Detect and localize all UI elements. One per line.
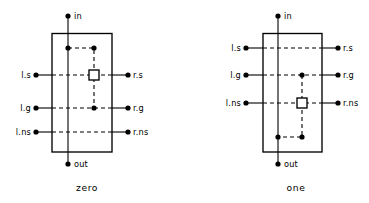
port-dot-right-r.s[interactable] (335, 45, 340, 50)
port-dot-right-r.ns[interactable] (335, 100, 340, 105)
caption-zero: zero (76, 182, 98, 193)
switch-square-one[interactable] (297, 98, 307, 108)
internal-dot-zero-2 (91, 105, 96, 110)
diagram-svg: l.sl.gl.nsr.sr.gr.nsinoutzerol.sl.gl.nsr… (0, 0, 369, 203)
port-dot-right-r.s[interactable] (125, 72, 130, 77)
port-label-right-r.ns: r.ns (133, 127, 148, 137)
port-label-right-r.s: r.s (343, 43, 353, 53)
internal-dot-zero-0 (65, 45, 70, 50)
port-label-right-r.ns: r.ns (343, 98, 358, 108)
switch-square-zero[interactable] (89, 70, 99, 80)
port-dot-in-one[interactable] (275, 13, 280, 18)
internal-dot-one-1 (299, 134, 304, 139)
port-label-left-l.s: l.s (21, 70, 31, 80)
port-dot-left-l.s[interactable] (243, 45, 248, 50)
internal-dot-one-0 (299, 72, 304, 77)
port-label-in-zero: in (74, 11, 82, 21)
port-dot-right-r.ns[interactable] (125, 129, 130, 134)
cell-box-one (263, 34, 322, 153)
port-dot-out-one[interactable] (275, 161, 280, 166)
cell-one: l.sl.gl.nsr.sr.gr.nsinoutone (226, 11, 359, 193)
port-dot-in-zero[interactable] (65, 13, 70, 18)
port-label-left-l.ns: l.ns (16, 127, 31, 137)
cell-zero: l.sl.gl.nsr.sr.gr.nsinoutzero (16, 11, 149, 193)
port-dot-left-l.g[interactable] (243, 72, 248, 77)
port-dot-right-r.g[interactable] (335, 72, 340, 77)
port-label-in-one: in (284, 11, 292, 21)
figure-canvas: l.sl.gl.nsr.sr.gr.nsinoutzerol.sl.gl.nsr… (0, 0, 369, 203)
port-label-out-zero: out (74, 159, 89, 169)
port-dot-out-zero[interactable] (65, 161, 70, 166)
port-label-right-r.g: r.g (133, 103, 144, 113)
port-dot-left-l.ns[interactable] (243, 100, 248, 105)
internal-dot-zero-1 (91, 45, 96, 50)
port-label-out-one: out (284, 159, 299, 169)
port-dot-left-l.s[interactable] (33, 72, 38, 77)
port-label-left-l.ns: l.ns (226, 98, 241, 108)
port-label-left-l.s: l.s (231, 43, 241, 53)
port-label-right-r.s: r.s (133, 70, 143, 80)
port-dot-left-l.g[interactable] (33, 105, 38, 110)
port-label-right-r.g: r.g (343, 70, 354, 80)
port-label-left-l.g: l.g (230, 70, 241, 80)
cell-box-zero (52, 34, 112, 153)
caption-one: one (287, 182, 306, 193)
internal-dot-one-2 (275, 134, 280, 139)
port-label-left-l.g: l.g (20, 103, 31, 113)
port-dot-left-l.ns[interactable] (33, 129, 38, 134)
port-dot-right-r.g[interactable] (125, 105, 130, 110)
